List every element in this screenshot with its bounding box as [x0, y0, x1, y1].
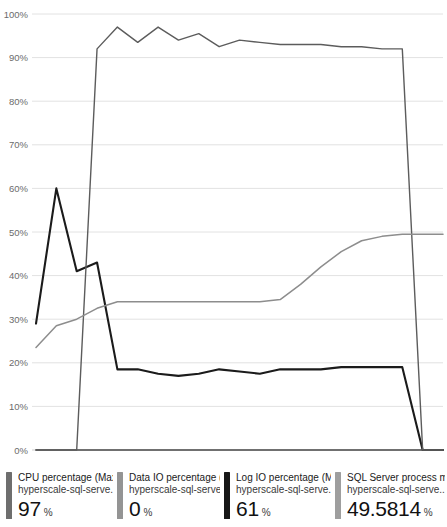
legend-value: 49.5814 [347, 498, 421, 520]
legend-swatch-icon [6, 472, 12, 519]
y-axis-tick-label: 90% [9, 52, 29, 63]
legend-item[interactable]: Log IO percentage (Max)hyperscale-sql-se… [220, 472, 331, 525]
legend-resource-name: hyperscale-sql-serve.. [129, 484, 220, 496]
legend-item[interactable]: Data IO percentage (...hyperscale-sql-se… [113, 472, 220, 525]
legend-metric-name: Data IO percentage (... [129, 472, 220, 484]
legend-text-block: SQL Server process m...hyperscale-sql-se… [347, 472, 445, 520]
legend-value: 97 [18, 498, 41, 520]
line-chart-canvas[interactable]: 100%90%80%70%60%50%40%30%20%10%0% [0, 0, 447, 464]
metrics-chart-screen: 100%90%80%70%60%50%40%30%20%10%0% CPU pe… [0, 0, 447, 527]
y-axis-tick-label: 70% [9, 139, 29, 150]
legend-unit: % [143, 507, 152, 519]
chart-legend: CPU percentage (Max)hyperscale-sql-serve… [0, 466, 447, 527]
legend-unit: % [44, 507, 53, 519]
legend-value-row: 49.5814% [347, 498, 445, 520]
y-axis-tick-label: 0% [14, 445, 28, 456]
legend-item[interactable]: SQL Server process m...hyperscale-sql-se… [331, 472, 445, 525]
y-axis-tick-labels-group: 100%90%80%70%60%50%40%30%20%10%0% [4, 9, 29, 456]
legend-resource-name: hyperscale-sql-serve... [18, 484, 113, 496]
legend-value: 0 [129, 498, 140, 520]
y-axis-tick-label: 20% [9, 357, 29, 368]
legend-value-row: 97% [18, 498, 113, 520]
y-axis-tick-label: 60% [9, 183, 29, 194]
legend-unit: % [424, 507, 433, 519]
y-axis-tick-label: 80% [9, 96, 29, 107]
legend-text-block: Data IO percentage (...hyperscale-sql-se… [129, 472, 220, 520]
series-line-2 [36, 27, 443, 450]
legend-text-block: CPU percentage (Max)hyperscale-sql-serve… [18, 472, 113, 520]
legend-resource-name: hyperscale-sql-serve... [236, 484, 331, 496]
legend-value: 61 [236, 498, 259, 520]
legend-value-row: 0% [129, 498, 220, 520]
legend-swatch-icon [335, 472, 341, 519]
y-axis-tick-label: 40% [9, 270, 29, 281]
legend-metric-name: CPU percentage (Max) [18, 472, 113, 484]
y-axis-tick-label: 30% [9, 314, 29, 325]
y-axis-tick-label: 10% [9, 401, 29, 412]
legend-text-block: Log IO percentage (Max)hyperscale-sql-se… [236, 472, 331, 520]
legend-metric-name: SQL Server process m... [347, 472, 445, 484]
legend-swatch-icon [224, 472, 230, 519]
series-line-3 [36, 234, 443, 347]
chart-panel: 100%90%80%70%60%50%40%30%20%10%0% [0, 0, 447, 464]
series-lines-group [36, 27, 443, 450]
gridlines-group [32, 14, 443, 450]
legend-unit: % [262, 507, 271, 519]
legend-metric-name: Log IO percentage (Max) [236, 472, 331, 484]
legend-swatch-icon [117, 472, 123, 519]
legend-resource-name: hyperscale-sql-serve... [347, 484, 445, 496]
legend-item[interactable]: CPU percentage (Max)hyperscale-sql-serve… [2, 472, 113, 525]
y-axis-tick-label: 100% [4, 9, 29, 20]
y-axis-tick-label: 50% [9, 227, 29, 238]
legend-value-row: 61% [236, 498, 331, 520]
